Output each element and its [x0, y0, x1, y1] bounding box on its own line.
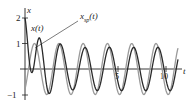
y-tick-label-1: 1	[16, 39, 21, 49]
label-xt: x(t)	[30, 23, 44, 33]
x-axis-label: t	[183, 66, 186, 76]
label-xsp: xsp(t)	[79, 11, 98, 23]
series-xt-line	[25, 18, 178, 94]
y-tick-label-m1: −1	[7, 90, 17, 100]
y-axis-label: x	[26, 5, 31, 15]
y-tick-label-2: 2	[16, 13, 21, 23]
chart: 2 1 −1 5 10 x t x(t) xsp(t)	[0, 0, 192, 106]
